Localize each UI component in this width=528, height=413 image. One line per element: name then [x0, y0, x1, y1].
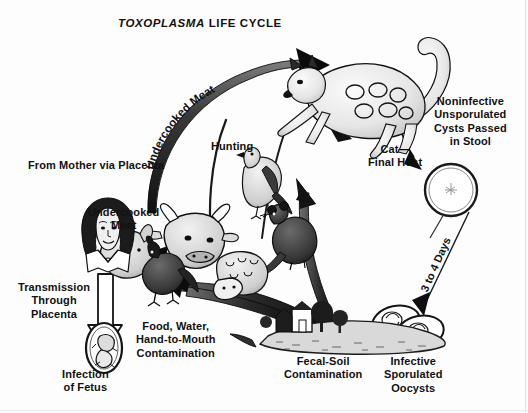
label-noninfective-cysts: Noninfective Unsporulated Cysts Passed i… — [434, 95, 507, 149]
label-transmission-through-placenta: Transmission Through Placenta — [18, 281, 90, 321]
title-roman-part: LIFE CYCLE — [205, 17, 282, 29]
toxoplasma-life-cycle-figure: Undercooked Meat 3 to 4 Days TOXOPLASMA … — [0, 0, 528, 413]
label-fecal-soil-contamination: Fecal-Soil Contamination — [284, 355, 362, 382]
title-italic-part: TOXOPLASMA — [118, 17, 205, 29]
page-title: TOXOPLASMA LIFE CYCLE — [118, 16, 282, 30]
label-food-water-contamination: Food, Water, Hand-to-Mouth Contamination — [136, 320, 216, 360]
life-cycle-artwork: Undercooked Meat 3 to 4 Days — [0, 0, 528, 413]
label-undercooked-meat-left: Undercooked Meat — [88, 206, 159, 233]
label-three-to-four-days: 3 to 4 Days — [418, 235, 453, 293]
label-cat-final-host: Cat— Final Host — [368, 143, 422, 170]
label-hunting: Hunting — [211, 140, 253, 153]
unsporulated-cyst-circle — [425, 164, 477, 238]
label-from-mother-via-placenta: From Mother via Placenta — [28, 159, 164, 172]
fetus-illustration — [86, 323, 122, 373]
label-infection-of-fetus: Infection of Fetus — [62, 368, 109, 395]
label-infective-sporulated-oocysts: Infective Sporulated Oocysts — [384, 355, 442, 395]
sheep-illustration — [214, 252, 268, 300]
